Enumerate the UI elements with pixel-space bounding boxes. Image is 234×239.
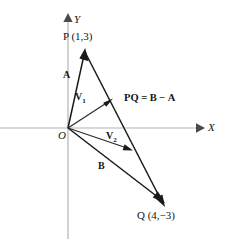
vector-v2-line xyxy=(68,128,127,148)
vector-b-label: B xyxy=(98,161,105,171)
vector-diagram-canvas xyxy=(0,0,234,239)
vector-v2-label: V2 xyxy=(106,131,117,144)
point-q-label: Q (4,−3) xyxy=(137,210,175,221)
vector-v2-arrowhead xyxy=(123,144,133,150)
vector-v1-subscript: 1 xyxy=(82,97,86,105)
vector-v1-label: V1 xyxy=(75,92,86,105)
segment-pq-line xyxy=(85,52,161,200)
y-axis-label: Y xyxy=(74,14,80,25)
pq-equation-label: PQ = B − A xyxy=(124,93,176,104)
x-axis-label: X xyxy=(208,122,215,133)
vector-diagram-figure: Y X O P (1,3) Q (4,−3) A B V1 V2 PQ = B … xyxy=(0,0,234,239)
vector-v1-line xyxy=(68,102,108,128)
x-axis-arrowhead xyxy=(196,123,205,133)
vector-v2-subscript: 2 xyxy=(113,136,117,144)
point-p-label: P (1,3) xyxy=(63,31,93,42)
y-axis-arrowhead xyxy=(63,13,72,22)
vector-a-label: A xyxy=(63,70,70,80)
origin-label: O xyxy=(58,130,66,141)
vector-a-arrowhead xyxy=(79,48,88,61)
